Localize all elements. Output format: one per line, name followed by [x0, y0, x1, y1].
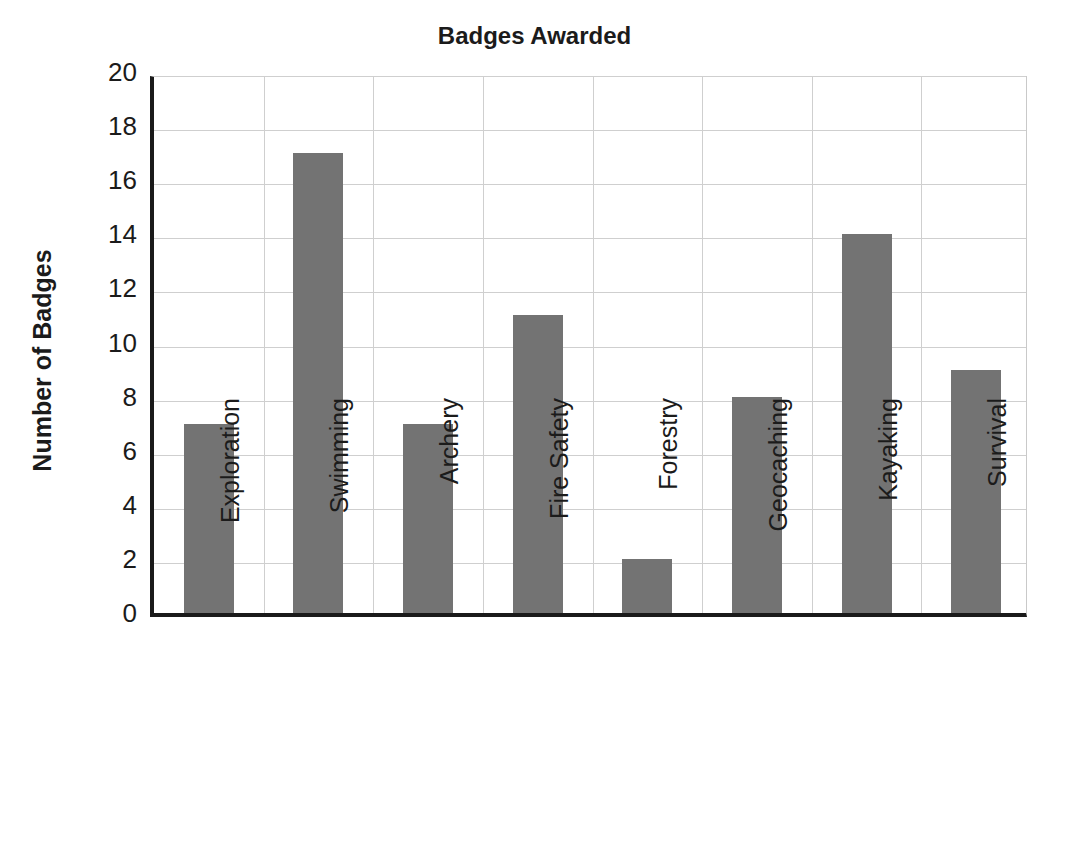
bar: [513, 315, 563, 613]
y-tick-label: 8: [60, 384, 137, 410]
gridline-horizontal: [154, 563, 1026, 564]
gridline-horizontal: [154, 292, 1026, 293]
y-tick-label: 14: [60, 221, 137, 247]
gridline-horizontal: [154, 238, 1026, 239]
gridline-horizontal: [154, 347, 1026, 348]
y-tick-label: 10: [60, 330, 137, 356]
chart-title: Badges Awarded: [0, 22, 1069, 50]
y-tick-label: 18: [60, 113, 137, 139]
y-tick-label: 20: [60, 59, 137, 85]
gridline-horizontal: [154, 184, 1026, 185]
y-tick-label: 6: [60, 438, 137, 464]
gridline-vertical: [702, 77, 703, 613]
y-axis-title: Number of Badges: [28, 151, 57, 571]
gridline-vertical: [264, 77, 265, 613]
bar: [184, 424, 234, 613]
bar: [403, 424, 453, 613]
gridline-horizontal: [154, 455, 1026, 456]
gridline-vertical: [812, 77, 813, 613]
gridline-vertical: [593, 77, 594, 613]
gridline-vertical: [373, 77, 374, 613]
bar: [293, 153, 343, 613]
bar-chart: Badges Awarded Number of Badges 02468101…: [0, 0, 1069, 847]
gridline-horizontal: [154, 76, 1026, 77]
bar: [842, 234, 892, 613]
gridline-horizontal: [154, 509, 1026, 510]
plot-area: [150, 76, 1027, 617]
bar: [622, 559, 672, 613]
gridline-vertical: [921, 77, 922, 613]
gridline-vertical: [483, 77, 484, 613]
y-tick-label: 0: [60, 600, 137, 626]
y-tick-label: 2: [60, 546, 137, 572]
y-tick-label: 16: [60, 167, 137, 193]
bar: [951, 370, 1001, 613]
bar: [732, 397, 782, 613]
y-tick-label: 12: [60, 275, 137, 301]
gridline-horizontal: [154, 130, 1026, 131]
y-tick-label: 4: [60, 492, 137, 518]
gridline-horizontal: [154, 401, 1026, 402]
